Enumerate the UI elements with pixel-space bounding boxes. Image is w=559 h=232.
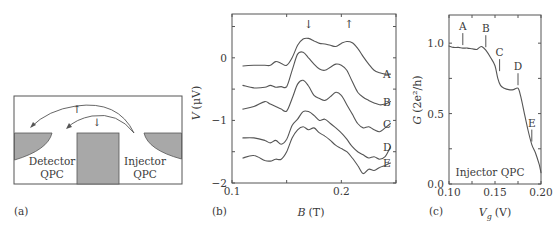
- y-tick-label: −1: [212, 114, 227, 126]
- series-label-d: D: [383, 141, 391, 153]
- panel-c-chart: 0.100.150.200.00.51.0 ABCDE Injector QPC…: [411, 15, 553, 221]
- chart-b-ylabel: V(μV): [190, 86, 203, 121]
- spin-down-arrow-icon: ↓: [93, 116, 102, 128]
- spin-up-marker-icon: ↑: [344, 18, 353, 31]
- chart-c-curve: [449, 46, 541, 173]
- detector-qpc-label: QPC: [40, 168, 64, 180]
- marker-label-b: B: [482, 22, 490, 34]
- chart-c-xlabel: Vg(V): [479, 206, 512, 221]
- xlabel-unit: (V): [495, 206, 512, 219]
- panel-b-chart: 0.10.2−2−10 ABCDE ↓ ↑ V(μV) B(T) (b): [190, 14, 396, 219]
- series-line-a: [243, 38, 391, 74]
- center-gate-block: [77, 133, 119, 184]
- marker-label-a: A: [458, 20, 467, 32]
- figure: ↑ ↓ Detector QPC Injector QPC (a) 0.10.2…: [0, 0, 559, 232]
- series-line-c: [243, 80, 391, 131]
- marker-label-e: E: [528, 117, 536, 129]
- injector-label: Injector: [124, 155, 167, 167]
- x-tick-label: 0.15: [483, 186, 506, 198]
- arrowhead-inner: [66, 123, 72, 129]
- detector-label: Detector: [29, 155, 76, 167]
- spin-up-trajectory-arrow: [31, 105, 134, 133]
- y-tick-label: 0.5: [427, 108, 444, 120]
- x-tick-label: 0.2: [333, 185, 350, 197]
- ylabel-unit: (μV): [190, 86, 203, 110]
- marker-label-d: D: [514, 60, 522, 72]
- y-tick-label: 1.0: [427, 37, 444, 49]
- series-label-b: B: [383, 96, 391, 108]
- xlabel-unit: (T): [309, 206, 325, 219]
- chart-c-inset-text: Injector QPC: [456, 166, 525, 178]
- marker-label-c: C: [496, 46, 504, 58]
- panel-label-a: (a): [14, 205, 28, 217]
- chart-c-markers: ABCDE: [458, 20, 536, 141]
- series-label-e: E: [383, 157, 391, 169]
- chart-c-ylabel: G(2e²/h): [411, 75, 424, 124]
- y-tick-label: −2: [212, 177, 227, 189]
- series-line-injector-qpc: [449, 46, 541, 173]
- xlabel-var: B: [296, 206, 305, 219]
- series-label-a: A: [382, 68, 391, 80]
- ylabel-var: V: [190, 111, 203, 120]
- xlabel-sub: g: [487, 212, 492, 221]
- spin-up-arrow-icon: ↑: [73, 103, 82, 115]
- panel-label-c: (c): [429, 205, 443, 217]
- series-line-d: [243, 111, 391, 159]
- spin-down-marker-icon: ↓: [304, 18, 313, 31]
- chart-b-xlabel: B(T): [296, 206, 324, 219]
- x-tick-label: 0.20: [529, 186, 552, 198]
- panel-label-b: (b): [212, 205, 227, 217]
- chart-b-curves: [243, 38, 391, 173]
- series-line-e: [243, 127, 391, 174]
- panel-a-schematic: ↑ ↓ Detector QPC Injector QPC (a): [14, 96, 182, 217]
- series-label-c: C: [383, 118, 391, 130]
- ylabel-var: G: [411, 116, 424, 125]
- ylabel-unit: (2e²/h): [411, 75, 424, 112]
- y-tick-label: 0.0: [427, 178, 444, 190]
- y-tick-label: 0: [220, 52, 227, 64]
- injector-qpc-label: QPC: [133, 168, 157, 180]
